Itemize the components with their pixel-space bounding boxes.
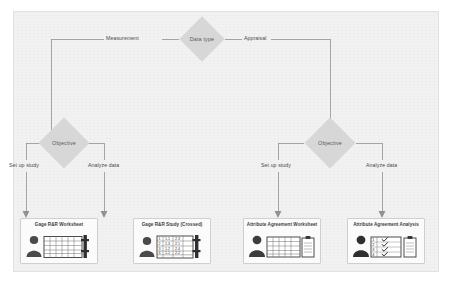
svg-text:1.3: 1.3	[165, 242, 170, 246]
decision-data-type-label: Data type	[172, 36, 232, 43]
node-attribute-agreement-worksheet[interactable]: Attribute Agreement Worksheet	[243, 218, 321, 264]
svg-text:4: 4	[372, 253, 374, 257]
edge-label-appraisal: Appraisal	[244, 35, 267, 41]
svg-text:2.2: 2.2	[175, 251, 180, 255]
edge-label-analyze-data-left: Analyze data	[88, 162, 119, 168]
node-gage-rr-study-crossed[interactable]: Gage R&R Study (Crossed)	[133, 218, 211, 264]
edge-label-setup-study-right: Set up study	[261, 162, 291, 168]
node-gage-rr-worksheet[interactable]: Gage R&R Worksheet	[20, 218, 98, 264]
svg-text:2: 2	[372, 243, 374, 247]
svg-text:3: 3	[372, 248, 374, 252]
node-attribute-agreement-analysis-label: Attribute Agreement Analysis	[350, 222, 422, 227]
decision-objective-right-label: Objective	[300, 140, 360, 147]
decision-tree-diagram: Data type Measurement Appraisal Objectiv…	[0, 0, 452, 287]
edge-label-measurement: Measurement	[106, 35, 139, 41]
svg-text:2: 2	[158, 242, 160, 246]
decision-objective-left-label: Objective	[34, 140, 94, 147]
edge-label-setup-study-left: Set up study	[9, 162, 39, 168]
person-spreadsheet-clipboard-icon	[247, 233, 317, 260]
arrowheads	[23, 211, 386, 218]
node-gage-rr-study-crossed-label: Gage R&R Study (Crossed)	[136, 222, 208, 227]
svg-text:1: 1	[158, 237, 160, 241]
person-spreadsheet-icon	[24, 233, 94, 260]
svg-text:4: 4	[158, 251, 160, 255]
node-gage-rr-worksheet-label: Gage R&R Worksheet	[23, 222, 95, 227]
diagram-canvas: Data type Measurement Appraisal Objectiv…	[0, 0, 452, 287]
node-attribute-agreement-analysis[interactable]: Attribute Agreement Analysis 1 2	[347, 218, 425, 264]
node-attribute-agreement-worksheet-label: Attribute Agreement Worksheet	[246, 222, 318, 227]
svg-text:2.3: 2.3	[175, 237, 180, 241]
svg-text:1.1: 1.1	[165, 237, 170, 241]
svg-text:1.1: 1.1	[165, 251, 170, 255]
svg-text:1: 1	[372, 238, 374, 242]
person-datatable-icon: 11.12.3 21.32.1 31.22.4 41.12.2	[137, 233, 207, 260]
person-checklist-clipboard-icon: 1 2 3 4	[351, 233, 421, 260]
edge-label-analyze-data-right: Analyze data	[366, 162, 397, 168]
svg-text:2.1: 2.1	[175, 242, 180, 246]
